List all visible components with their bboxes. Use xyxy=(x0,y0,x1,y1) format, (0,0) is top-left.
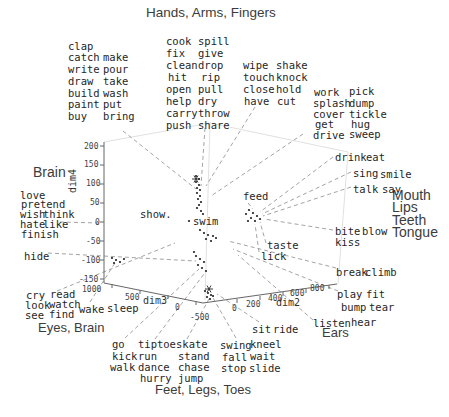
leader-line xyxy=(262,172,351,214)
word-drink: drink xyxy=(335,152,367,162)
data-point xyxy=(215,237,217,239)
word-spill: spill xyxy=(198,36,230,46)
data-point xyxy=(201,267,203,269)
data-point xyxy=(210,240,212,242)
data-point xyxy=(212,235,214,237)
word-paint: paint xyxy=(68,99,100,109)
word-help: help xyxy=(166,96,191,106)
word-find: find xyxy=(49,309,74,319)
word-open: open xyxy=(166,84,191,94)
word-pour: pour xyxy=(103,64,128,74)
word-close: close xyxy=(243,84,275,94)
word-bite: bite xyxy=(335,226,360,236)
data-point xyxy=(252,212,254,214)
data-point xyxy=(205,270,207,272)
leader-line xyxy=(248,203,253,209)
word-break: break xyxy=(336,267,368,277)
leader-line xyxy=(263,187,351,216)
word-fit: fit xyxy=(366,289,385,299)
data-point xyxy=(209,298,211,300)
cluster-label-brain: Brain xyxy=(33,164,66,180)
word-feed: feed xyxy=(243,191,268,201)
data-point xyxy=(212,295,214,297)
word-rip: rip xyxy=(201,72,220,82)
word-sweep: sweep xyxy=(349,129,381,139)
data-point xyxy=(254,220,256,222)
word-listen: listen xyxy=(313,318,351,328)
tick-label: 0 xyxy=(232,304,237,313)
word-take: take xyxy=(103,76,128,86)
axis-label-dim4: dim4 xyxy=(67,169,78,193)
leader-line xyxy=(255,224,259,252)
data-point xyxy=(199,189,201,191)
word-kneel: kneel xyxy=(250,339,282,349)
word-kick: kick xyxy=(112,351,137,361)
data-point xyxy=(259,218,261,220)
data-point xyxy=(200,210,202,212)
word-drive: drive xyxy=(313,130,345,140)
word-say: say xyxy=(382,184,401,194)
word-get: get xyxy=(315,119,334,129)
data-point xyxy=(196,192,198,194)
word-have: have xyxy=(244,96,269,106)
leader-line xyxy=(123,131,196,189)
word-talk: talk xyxy=(353,184,378,194)
word-wipe: wipe xyxy=(243,60,268,70)
word-skate: skate xyxy=(176,339,208,349)
word-knock: knock xyxy=(276,72,308,82)
box-edge xyxy=(338,152,348,284)
data-point xyxy=(195,255,197,257)
tick-label: 500 xyxy=(125,293,140,302)
data-point xyxy=(210,294,212,296)
word-buy: buy xyxy=(68,111,87,121)
data-point xyxy=(250,217,252,219)
word-kiss: kiss xyxy=(335,237,360,247)
data-point xyxy=(111,257,113,259)
data-point xyxy=(193,251,195,253)
word-catch: catch xyxy=(68,52,100,62)
word-eat: eat xyxy=(366,152,385,162)
cluster-label-hands-arms-fingers: Hands, Arms, Fingers xyxy=(146,5,276,20)
tick-label: 50 xyxy=(90,198,100,207)
word-ride: ride xyxy=(273,324,298,334)
data-point xyxy=(256,215,258,217)
leader-line xyxy=(211,134,303,196)
word-touch: touch xyxy=(243,72,275,82)
word-put: put xyxy=(103,99,122,109)
axis-label-dim2: dim2 xyxy=(276,297,300,308)
box-edge xyxy=(205,123,210,300)
leader-line xyxy=(264,219,333,230)
leader-line xyxy=(57,243,175,291)
tick-label: 0 xyxy=(175,303,180,312)
word-smile: smile xyxy=(380,169,412,179)
data-point xyxy=(199,195,201,197)
word-dump: dump xyxy=(349,98,374,108)
word-slide: slide xyxy=(249,363,281,373)
word-climb: climb xyxy=(365,267,397,277)
data-point xyxy=(199,229,201,231)
word-build: build xyxy=(68,88,100,98)
word-fix: fix xyxy=(166,48,185,58)
data-point xyxy=(203,232,205,234)
leader-line xyxy=(48,253,196,261)
word-lick: lick xyxy=(261,251,286,261)
box-edge xyxy=(104,123,210,142)
data-point xyxy=(199,258,201,260)
word-stop: stop xyxy=(221,363,246,373)
word-tear: tear xyxy=(369,302,394,312)
word-show: show. xyxy=(140,209,172,219)
data-point xyxy=(119,261,121,263)
data-point xyxy=(123,258,125,260)
data-point xyxy=(245,213,247,215)
tick-label: 800 xyxy=(310,284,325,293)
word-cut: cut xyxy=(277,96,296,106)
word-write: write xyxy=(68,64,100,74)
scatter-plot-figure: 200150100500-50-100-15010005000-50002004… xyxy=(0,0,449,417)
word-taste: taste xyxy=(267,240,299,250)
tick-label: -150 xyxy=(79,275,98,284)
leader-line xyxy=(260,222,266,243)
data-point xyxy=(198,184,200,186)
word-give: give xyxy=(198,48,223,58)
data-point xyxy=(204,290,206,292)
word-shake: shake xyxy=(276,60,308,70)
